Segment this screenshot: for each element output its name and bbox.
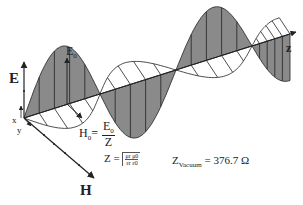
e0-label: E0 [66,45,77,60]
h0-equation: H0= E0 Z [79,120,115,148]
e-axis-tick [23,90,25,92]
x-axis-label: x [12,116,17,125]
e-axis-label: E [9,71,19,86]
h0-fraction: E0 Z [102,120,115,148]
em-wave-diagram [0,0,303,205]
sqrt-fraction: μr μ0 εr ε0 [122,152,140,166]
y-axis-label: y [17,126,22,135]
vacuum-impedance: ZVacuum = 376.7 Ω [172,155,249,169]
impedance-formula: Z = μr μ0 εr ε0 [104,152,140,166]
z-axis-label: z [286,42,291,54]
h-axis-label: H [80,183,92,198]
